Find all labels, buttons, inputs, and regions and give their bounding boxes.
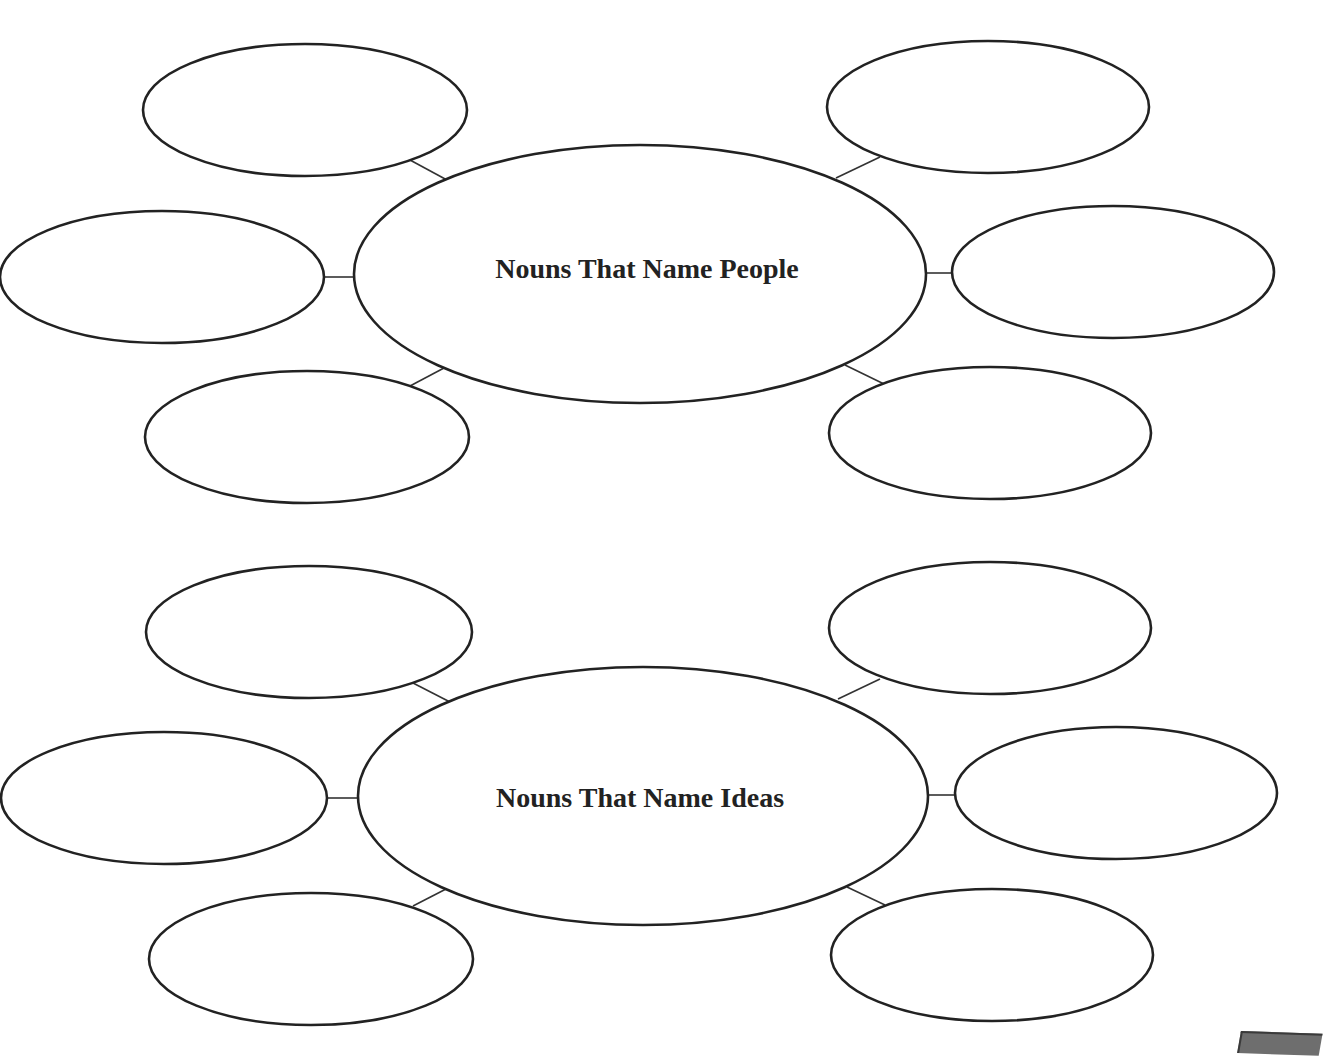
connector-bottom-right xyxy=(845,365,884,384)
satellite-ellipse-top-right[interactable] xyxy=(829,562,1151,694)
connector-bottom-left xyxy=(413,889,446,906)
satellite-ellipse-bottom-right[interactable] xyxy=(829,367,1151,499)
page-corner-tab xyxy=(1237,1031,1322,1056)
satellite-ellipse-middle-left[interactable] xyxy=(1,732,327,864)
satellite-ellipse-middle-right[interactable] xyxy=(955,727,1277,859)
satellite-ellipse-bottom-left[interactable] xyxy=(145,371,469,503)
connector-top-right xyxy=(838,679,880,699)
hub-label-people: Nouns That Name People xyxy=(495,253,799,284)
satellite-ellipse-top-right[interactable] xyxy=(827,41,1149,173)
satellite-ellipse-top-left[interactable] xyxy=(143,44,467,176)
hub-label-ideas: Nouns That Name Ideas xyxy=(496,782,784,813)
connector-top-left xyxy=(413,683,450,702)
satellite-ellipse-bottom-right[interactable] xyxy=(831,889,1153,1021)
satellite-ellipse-middle-left[interactable] xyxy=(0,211,324,343)
connector-bottom-right xyxy=(847,887,885,905)
connector-top-left xyxy=(410,160,447,180)
connector-top-right xyxy=(836,157,880,178)
word-web-people: Nouns That Name People xyxy=(0,41,1274,503)
satellite-ellipse-top-left[interactable] xyxy=(146,566,472,698)
connector-bottom-left xyxy=(410,368,444,386)
satellite-ellipse-middle-right[interactable] xyxy=(952,206,1274,338)
word-web-ideas: Nouns That Name Ideas xyxy=(1,562,1277,1025)
satellite-ellipse-bottom-left[interactable] xyxy=(149,893,473,1025)
